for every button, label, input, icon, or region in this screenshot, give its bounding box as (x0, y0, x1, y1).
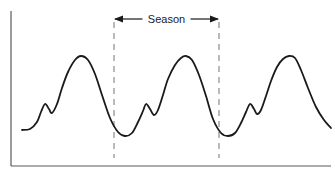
seasonal-chart-figure: Season (0, 0, 335, 177)
axes-group (11, 11, 331, 166)
seasonal-series-line (22, 56, 331, 136)
season-span-arrow: Season (114, 13, 219, 25)
chart-canvas: Season (0, 0, 335, 177)
arrowhead-right-icon (210, 16, 219, 23)
season-label: Season (148, 13, 185, 25)
arrowhead-left-icon (114, 16, 123, 23)
